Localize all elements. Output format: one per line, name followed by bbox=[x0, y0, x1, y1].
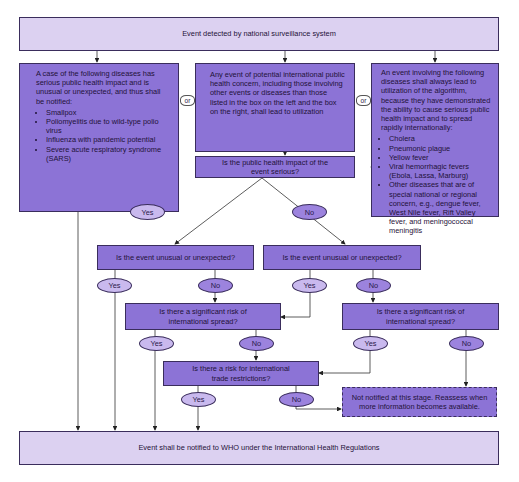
question-text: Is the public health impact of the event… bbox=[216, 158, 334, 176]
notify-who-box: Event shall be notified to WHO under the… bbox=[19, 431, 499, 465]
answer-yes: Yes bbox=[353, 336, 388, 351]
or-connector-right: or bbox=[356, 95, 371, 106]
list-item: Cholera bbox=[389, 134, 492, 143]
question-text: Is there a significant risk of internati… bbox=[373, 307, 468, 325]
question-spread-left: Is there a significant risk of internati… bbox=[125, 303, 281, 330]
question-unusual-left: Is the event unusual or unexpected? bbox=[97, 245, 254, 270]
answer-no: No bbox=[239, 336, 274, 351]
question-unusual-right: Is the event unusual or unexpected? bbox=[263, 245, 421, 270]
answer-yes: Yes bbox=[130, 204, 165, 220]
always-utilize-box: An event involving the following disease… bbox=[371, 63, 499, 217]
answer-yes: Yes bbox=[97, 278, 132, 293]
answer-yes: Yes bbox=[181, 392, 216, 407]
question-text: Is there a significant risk of internati… bbox=[156, 307, 250, 325]
detection-text: Event detected by national surveillance … bbox=[182, 29, 336, 38]
question-text: Is the event unusual or unexpected? bbox=[282, 253, 401, 262]
not-notified-box: Not notified at this stage. Reassess whe… bbox=[342, 387, 497, 417]
list-item: Viral hemorrhagic fevers (Ebola, Lassa, … bbox=[389, 162, 492, 180]
always-utilize-list: Cholera Pneumonic plague Yellow fever Vi… bbox=[381, 134, 492, 235]
question-text: Is there a risk for international trade … bbox=[192, 364, 290, 382]
or-connector-left: or bbox=[180, 95, 195, 106]
question-text: Is the event unusual or unexpected? bbox=[116, 253, 235, 262]
always-utilize-intro: An event involving the following disease… bbox=[381, 68, 492, 132]
answer-no: No bbox=[198, 278, 233, 293]
notifiable-intro: A case of the following diseases has ser… bbox=[36, 69, 170, 106]
question-trade-restrictions: Is there a risk for international trade … bbox=[163, 361, 319, 386]
answer-no: No bbox=[292, 204, 327, 220]
list-item: Other diseases that are of special natio… bbox=[389, 180, 492, 235]
list-item: Influenza with pandemic potential bbox=[46, 135, 170, 144]
notify-who-text: Event shall be notified to WHO under the… bbox=[138, 443, 379, 452]
notifiable-diseases-box: A case of the following diseases has ser… bbox=[19, 63, 179, 212]
answer-no: No bbox=[356, 278, 391, 293]
potential-concern-text: Any event of potential international pub… bbox=[210, 70, 345, 116]
not-notified-text: Not notified at this stage. Reassess whe… bbox=[351, 393, 488, 411]
list-item: Pneumonic plague bbox=[389, 144, 492, 153]
notifiable-list: Smallpox Poliomyelitis due to wild-type … bbox=[36, 108, 170, 163]
detection-box: Event detected by national surveillance … bbox=[19, 17, 499, 51]
list-item: Smallpox bbox=[46, 108, 170, 117]
question-serious-impact: Is the public health impact of the event… bbox=[195, 156, 355, 178]
list-item: Severe acute respiratory syndrome (SARS) bbox=[46, 145, 170, 163]
question-spread-right: Is there a significant risk of internati… bbox=[342, 303, 499, 330]
answer-yes: Yes bbox=[292, 278, 327, 293]
list-item: Yellow fever bbox=[389, 153, 492, 162]
answer-no: No bbox=[279, 392, 314, 407]
answer-yes: Yes bbox=[139, 336, 174, 351]
answer-no: No bbox=[449, 336, 484, 351]
potential-concern-box: Any event of potential international pub… bbox=[195, 63, 355, 152]
list-item: Poliomyelitis due to wild-type polio vir… bbox=[46, 117, 170, 135]
